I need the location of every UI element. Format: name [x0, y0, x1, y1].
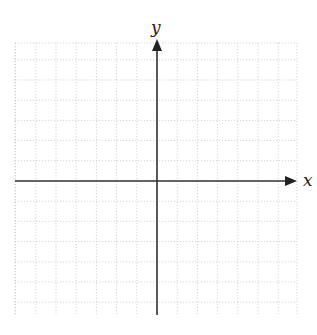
- grid-lines: [15, 43, 297, 315]
- x-axis-arrow-icon: [285, 176, 297, 186]
- y-axis-arrow-icon: [152, 39, 162, 51]
- coordinate-plane: x y: [0, 0, 317, 335]
- x-axis-label: x: [303, 170, 313, 190]
- y-axis-label: y: [150, 17, 161, 37]
